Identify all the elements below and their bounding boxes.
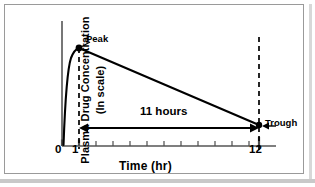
x-tick-label-1: 1 bbox=[72, 143, 78, 155]
figure-shadow-right bbox=[309, 4, 312, 183]
x-axis-title: Time (hr) bbox=[119, 159, 172, 173]
annotation-duration-label: 11 hours bbox=[140, 105, 187, 117]
x-tick-label-12: 12 bbox=[249, 143, 262, 155]
figure-shadow-bottom bbox=[0, 179, 315, 183]
x-tick-label-0: 0 bbox=[55, 143, 61, 155]
annotation-peak-label: Peak bbox=[86, 33, 108, 44]
figure-container: Plasma Drug Concentration (ln scale) Tim… bbox=[0, 0, 315, 187]
y-axis-title: Plasma Drug Concentration (ln scale) bbox=[9, 14, 49, 166]
annotation-trough-label: Trough bbox=[265, 117, 297, 128]
